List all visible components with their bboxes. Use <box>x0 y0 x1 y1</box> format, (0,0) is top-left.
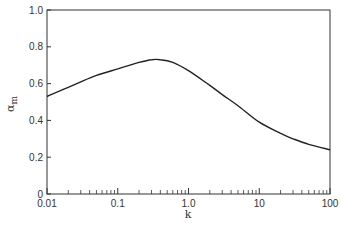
x-tick-label: 0.01 <box>37 198 57 209</box>
y-tick-label: 0.2 <box>29 152 43 163</box>
x-tick-label: 100 <box>322 198 339 209</box>
y-tick-label: 1.0 <box>29 5 43 16</box>
x-axis-ticks: 0.010.11.010100 <box>37 188 339 209</box>
y-tick-label: 0.4 <box>29 115 43 126</box>
y-axis-label: αm <box>4 96 19 112</box>
x-tick-label: 0.1 <box>111 198 125 209</box>
svg-text:αm: αm <box>4 96 19 112</box>
alpha-m-curve <box>47 59 330 149</box>
y-axis-ticks: 00.20.40.60.81.0 <box>29 5 51 200</box>
chart: 00.20.40.60.81.0 0.010.11.010100 k αm <box>0 0 341 226</box>
x-axis-label: k <box>185 208 192 221</box>
y-tick-label: 0.6 <box>29 78 43 89</box>
x-tick-label: 10 <box>254 198 266 209</box>
plot-frame <box>47 10 330 194</box>
y-tick-label: 0.8 <box>29 41 43 52</box>
